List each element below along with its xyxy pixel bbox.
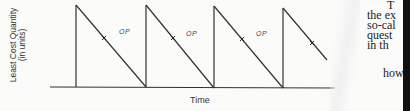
x-axis-label: Time — [190, 95, 210, 105]
depletion-line — [283, 8, 327, 60]
order-point-label: OP — [186, 30, 197, 37]
page-crease — [330, 0, 360, 111]
order-point-label: OP — [256, 30, 267, 37]
depletion-line — [146, 5, 214, 88]
order-point-label: OP — [119, 28, 130, 35]
text-line: how — [367, 68, 407, 78]
y-axis-unit: (in units) — [18, 5, 27, 85]
page-body-text: T the ex so-cal quest in th how — [367, 0, 407, 78]
time-axis — [50, 87, 335, 88]
depletion-line — [76, 5, 146, 87]
text-line: in th — [367, 40, 407, 50]
page-edge-shadow — [403, 0, 410, 111]
order-point-markers — [102, 36, 314, 45]
y-axis-label: Least Cost Quantity (in units) — [9, 5, 27, 85]
depletion-line — [214, 6, 283, 88]
